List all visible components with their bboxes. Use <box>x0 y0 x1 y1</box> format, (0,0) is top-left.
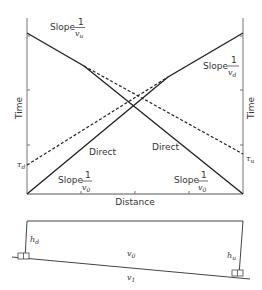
h-d-label: hd <box>30 235 39 245</box>
slope-v0-right-label: Slope 1 v0 <box>174 170 208 193</box>
svg-text:Slope: Slope <box>50 22 75 32</box>
svg-text:1: 1 <box>231 55 237 65</box>
svg-text:1: 1 <box>78 17 84 27</box>
tau-u-label: τu <box>246 154 254 164</box>
right-time-label: Time <box>246 97 256 120</box>
surface-and-shot-columns <box>25 221 243 275</box>
v1-label: v1 <box>127 273 135 283</box>
svg-text:v0: v0 <box>198 183 207 193</box>
slope-vd-label: Slope 1 vd <box>203 55 239 78</box>
left-time-label: Time <box>14 97 24 120</box>
reverse-shot-traveltime-curve <box>27 33 243 194</box>
svg-text:vd: vd <box>228 68 237 78</box>
svg-text:Slope: Slope <box>58 175 83 185</box>
h-u-label: hu <box>227 251 236 261</box>
svg-text:1: 1 <box>85 170 91 180</box>
svg-text:Slope: Slope <box>203 61 228 71</box>
diagram-canvas: Time Time Distance Slope 1 vu Slope 1 vd… <box>0 0 262 290</box>
v0-label: v0 <box>127 249 136 259</box>
svg-text:vu: vu <box>75 29 84 39</box>
tau-d-label: τd <box>17 160 25 170</box>
svg-text:Slope: Slope <box>174 175 199 185</box>
svg-text:v0: v0 <box>82 183 91 193</box>
direct-left-label: Direct <box>89 147 116 157</box>
svg-text:1: 1 <box>201 170 207 180</box>
direct-right-label: Direct <box>152 142 179 152</box>
forward-shot-traveltime-curve <box>27 33 243 194</box>
slope-vu-label: Slope 1 vu <box>50 17 85 39</box>
distance-label: Distance <box>115 197 155 207</box>
slope-v0-left-label: Slope 1 v0 <box>58 170 92 193</box>
